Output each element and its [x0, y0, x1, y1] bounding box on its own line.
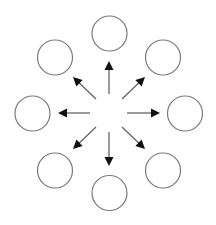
node-circle-bottom-right: [146, 153, 181, 188]
arrowhead-icon: [58, 109, 67, 118]
arrow-to-bottom-left: [73, 127, 96, 149]
node-circle-top: [92, 16, 127, 51]
arrow-to-top-left: [73, 77, 96, 99]
node-circle-bottom-left: [38, 153, 73, 188]
radial-arrow-diagram: [0, 0, 216, 225]
arrowhead-icon: [151, 109, 160, 118]
node-circle-top-right: [146, 40, 181, 75]
arrowhead-icon: [105, 61, 114, 70]
node-circle-top-left: [38, 40, 73, 75]
arrow-shaft: [79, 83, 96, 99]
arrow-to-right: [127, 109, 160, 118]
arrowhead-icon: [105, 157, 114, 166]
arrows-layer: [58, 61, 160, 166]
arrow-to-bottom: [105, 132, 114, 166]
arrow-to-left: [58, 109, 90, 118]
nodes-layer: [15, 16, 203, 211]
node-circle-left: [15, 96, 50, 131]
arrow-to-top-right: [122, 77, 145, 99]
arrow-shaft: [122, 83, 139, 99]
arrow-to-top: [105, 61, 114, 94]
arrow-shaft: [122, 127, 139, 143]
node-circle-right: [168, 96, 203, 131]
arrow-to-bottom-right: [122, 127, 145, 149]
node-circle-bottom: [92, 176, 127, 211]
arrow-shaft: [79, 127, 96, 143]
